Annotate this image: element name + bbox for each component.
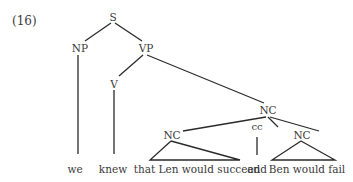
node-nc-right: NC	[293, 130, 310, 141]
node-v: V	[110, 79, 118, 90]
node-cc: cc	[251, 122, 262, 132]
triangle-nc-left	[150, 141, 240, 160]
word-clause1: that Len would succeed	[134, 164, 261, 175]
triangle-nc-right	[272, 141, 335, 160]
node-np: NP	[72, 43, 88, 54]
node-s: S	[109, 12, 116, 23]
node-nc-top: NC	[259, 105, 276, 116]
branch-vp-v	[119, 55, 143, 76]
word-we: we	[67, 164, 82, 175]
node-vp: VP	[139, 43, 154, 54]
branch-s-np	[85, 23, 111, 41]
node-nc-left: NC	[163, 130, 180, 141]
word-and: and	[247, 164, 267, 175]
branch-s-vp	[115, 23, 142, 41]
word-clause2: Ben would fail	[269, 164, 345, 175]
word-knew: knew	[99, 164, 127, 175]
tree-branches	[0, 0, 353, 182]
branch-vp-nc	[147, 55, 264, 103]
